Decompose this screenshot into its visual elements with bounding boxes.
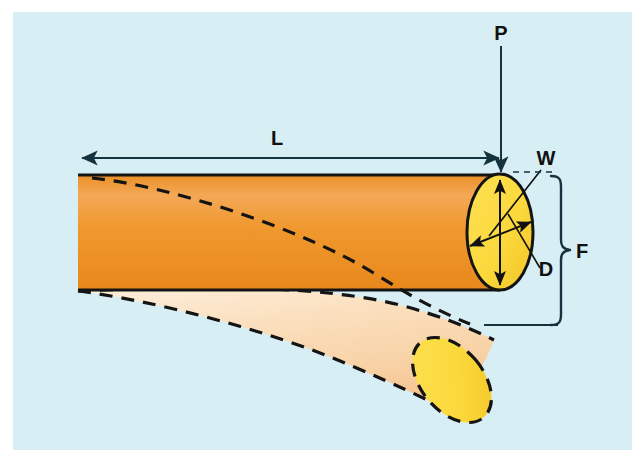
label-P: P	[494, 22, 507, 44]
cantilever-beam-diagram: P L D W F	[0, 0, 642, 461]
label-L: L	[271, 127, 283, 149]
figure-root: P L D W F	[0, 0, 642, 461]
label-W: W	[537, 147, 556, 169]
label-F: F	[576, 240, 588, 262]
label-D: D	[539, 258, 553, 280]
